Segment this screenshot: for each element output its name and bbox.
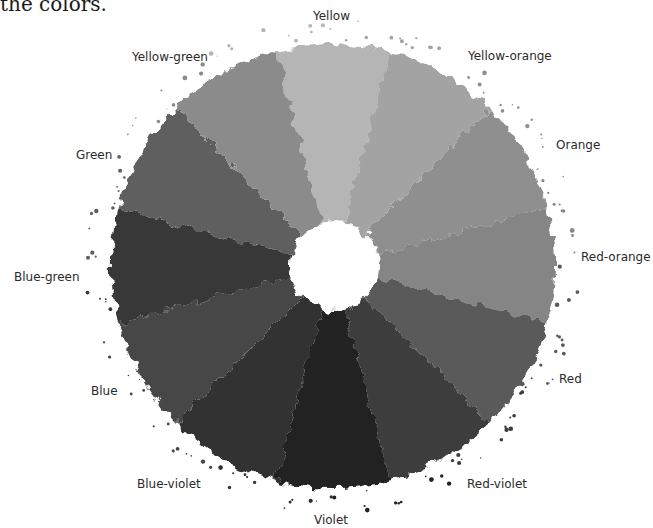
label-yellow-orange: Yellow-orange [468, 49, 552, 63]
label-red-violet: Red-violet [467, 477, 527, 491]
label-blue-violet: Blue-violet [137, 477, 201, 491]
label-yellow: Yellow [313, 9, 350, 23]
label-red-orange: Red-orange [581, 250, 651, 264]
color-wheel [0, 0, 653, 528]
label-red: Red [559, 372, 582, 386]
center-hub [290, 221, 380, 311]
label-yellow-green: Yellow-green [132, 50, 208, 64]
label-green: Green [76, 148, 112, 162]
label-blue-green: Blue-green [14, 270, 80, 284]
label-violet: Violet [314, 513, 348, 527]
label-orange: Orange [556, 138, 600, 152]
label-blue: Blue [91, 384, 118, 398]
